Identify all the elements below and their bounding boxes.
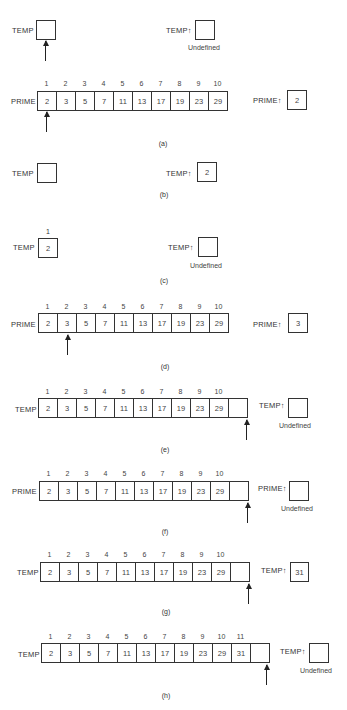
array-indices: 12345678910	[37, 80, 227, 87]
array-indices: 12345678910	[38, 303, 228, 310]
prime-up-box: 3	[288, 313, 308, 333]
caption-b: (b)	[149, 191, 179, 198]
undefined-label: Undefined	[279, 422, 311, 429]
arrow-up-icon	[67, 335, 68, 355]
prime-up-label: PRIME↑	[253, 320, 282, 329]
arrow-up-icon	[266, 665, 267, 685]
temp-up-label: TEMP↑	[168, 243, 194, 252]
temp-pointer-box	[36, 20, 56, 40]
temp-array: 2357111317192329	[40, 562, 250, 582]
empty-cell	[250, 643, 270, 663]
prime-array: 2357111317192329	[37, 91, 228, 111]
prime-array: 2357111317192329	[38, 313, 229, 333]
temp-up-label: TEMP↑	[261, 566, 287, 575]
prime-array: 2357111317192329	[39, 481, 249, 501]
temp-label: TEMP	[17, 568, 39, 577]
temp-label: TEMP	[15, 405, 37, 414]
arrow-up-icon	[45, 41, 46, 61]
prime-label: PRIME	[11, 320, 36, 329]
empty-cell	[228, 398, 248, 418]
temp-label: TEMP	[12, 169, 34, 178]
temp-label: TEMP	[12, 26, 34, 35]
empty-cell	[230, 562, 250, 582]
prime-label: PRIME	[12, 487, 37, 496]
temp-up-box	[288, 398, 308, 418]
temp-up-box: 2	[197, 162, 217, 182]
caption-d: (d)	[150, 363, 180, 370]
temp-up-box	[309, 643, 329, 663]
prime-up-label: PRIME↑	[253, 96, 282, 105]
prime-up-label: PRIME↑	[258, 484, 287, 493]
temp-label: TEMP	[18, 650, 40, 659]
arrow-up-icon	[247, 503, 248, 523]
temp-up-label: TEMP↑	[166, 26, 192, 35]
caption-h: (h)	[151, 692, 181, 699]
temp-label: TEMP	[13, 243, 35, 252]
arrow-up-icon	[46, 112, 47, 132]
array-indices: 12345678910	[39, 470, 229, 477]
prime-label: PRIME	[11, 97, 36, 106]
temp-array-cell: 2	[38, 238, 58, 258]
temp-up-box	[195, 20, 215, 40]
empty-cell	[229, 481, 249, 501]
caption-e: (e)	[150, 446, 180, 453]
array-indices: 12345678910	[40, 551, 230, 558]
temp-up-label: TEMP↑	[166, 169, 192, 178]
temp-array: 235711131719232931	[41, 643, 270, 663]
array-indices: 12345678910	[38, 388, 228, 395]
caption-g: (g)	[151, 608, 181, 615]
undefined-label: Undefined	[188, 44, 220, 51]
temp-array: 2357111317192329	[38, 398, 248, 418]
temp-up-label: TEMP↑	[259, 401, 285, 410]
array-indices: 1234567891011	[41, 633, 250, 640]
temp-pointer-box	[37, 163, 57, 183]
caption-c: (c)	[149, 277, 179, 284]
undefined-label: Undefined	[281, 505, 313, 512]
prime-up-box	[289, 481, 309, 501]
undefined-label: Undefined	[300, 667, 332, 674]
arrow-up-icon	[246, 420, 247, 440]
prime-up-box: 2	[287, 90, 307, 110]
caption-f: (f)	[150, 528, 180, 535]
caption-a: (a)	[148, 140, 178, 147]
temp-up-box	[198, 237, 218, 257]
temp-up-box: 31	[290, 562, 309, 582]
arrow-up-icon	[248, 584, 249, 604]
temp-up-label: TEMP↑	[280, 647, 306, 656]
array-index: 1	[38, 228, 58, 235]
undefined-label: Undefined	[190, 262, 222, 269]
